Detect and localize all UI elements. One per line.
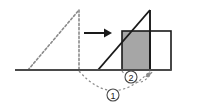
callout-1-label: 1 [110,91,115,101]
transform-arrow [84,29,112,38]
callout-1: 1 [79,71,150,101]
geometry-diagram: 1 2 [0,0,197,107]
white-rectangle [150,31,171,70]
figure-container: 1 2 [0,0,197,107]
original-triangle [28,10,79,70]
original-triangle-hypotenuse [28,10,79,70]
transform-arrow-head [104,29,112,38]
callout-2-label: 2 [128,73,133,83]
callout-1-arc [79,71,150,91]
